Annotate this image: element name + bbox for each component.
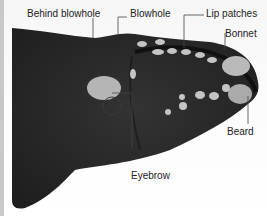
label-blowhole: Blowhole: [130, 8, 171, 19]
label-beard: Beard: [227, 126, 254, 137]
bonnet-callosity: [222, 56, 250, 76]
label-lip-patches: Lip patches: [206, 8, 257, 19]
label-eyebrow: Eyebrow: [131, 170, 170, 181]
whale-head-diagram: Behind blowhole Blowhole Lip patches Bon…: [0, 0, 267, 216]
eyebrow-callosity: [87, 76, 121, 100]
label-bonnet: Bonnet: [225, 28, 257, 39]
label-behind-blowhole: Behind blowhole: [27, 8, 100, 19]
